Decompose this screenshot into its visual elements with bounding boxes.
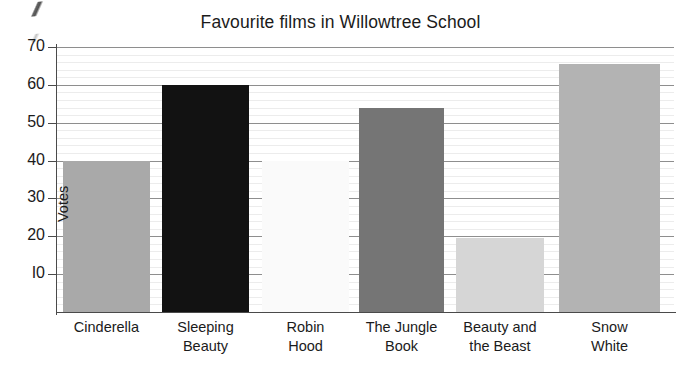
x-axis-category-label: Cinderella [63, 318, 150, 337]
y-axis-tick [48, 47, 57, 48]
bar [359, 108, 444, 312]
y-axis-tick [48, 85, 57, 86]
y-axis-tick-label: 30 [5, 188, 45, 206]
category-label-line: Sleeping [162, 318, 249, 337]
category-label-line: Snow [559, 318, 660, 337]
x-axis-category-label: SnowWhite [559, 318, 660, 356]
y-axis-tick-label: 70 [5, 37, 45, 55]
y-axis-tick [48, 123, 57, 124]
category-label-line: Beauty and [456, 318, 544, 337]
category-label-line: Robin [262, 318, 349, 337]
y-axis-tick-label: 60 [5, 75, 45, 93]
minor-gridline [57, 55, 674, 56]
category-label-line: Hood [262, 337, 349, 356]
x-axis-category-label: Beauty andthe Beast [456, 318, 544, 356]
category-label-line: the Beast [456, 337, 544, 356]
category-label-line: White [559, 337, 660, 356]
y-axis-tick [48, 236, 57, 237]
x-axis-category-label: The JungleBook [359, 318, 444, 356]
y-axis-tick-label: 20 [5, 226, 45, 244]
y-axis-tick-label: 50 [5, 113, 45, 131]
x-axis-category-label: RobinHood [262, 318, 349, 356]
bar [559, 64, 660, 312]
y-axis-tick-label: 40 [5, 151, 45, 169]
x-axis-category-label: SleepingBeauty [162, 318, 249, 356]
y-axis-tick-label: I0 [5, 264, 45, 282]
y-axis-title: Votes [55, 186, 71, 222]
chart-title: Favourite films in Willowtree School [0, 12, 681, 33]
minor-gridline [57, 62, 674, 63]
category-label-line: Beauty [162, 337, 249, 356]
bar [456, 238, 544, 312]
chart-page: Favourite films in Willowtree School Vot… [0, 0, 681, 379]
bar [262, 161, 349, 312]
plot-area: Votes [57, 47, 674, 312]
y-axis-tick [48, 274, 57, 275]
category-label-line: Cinderella [63, 318, 150, 337]
category-label-line: The Jungle [359, 318, 444, 337]
x-axis-line [57, 312, 676, 313]
bar [63, 161, 150, 312]
y-axis-tick [48, 161, 57, 162]
bar [162, 85, 249, 312]
major-gridline [57, 47, 674, 48]
category-label-line: Book [359, 337, 444, 356]
